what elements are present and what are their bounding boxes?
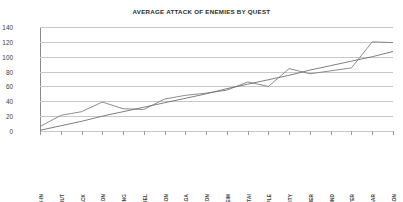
x-tick-label: COREL PRISON	[164, 194, 169, 202]
x-tick	[227, 131, 228, 135]
x-tick-label: ANCIENT CITY	[288, 194, 293, 202]
x-tick	[82, 131, 83, 135]
x-tick-label: TO COREL	[143, 194, 148, 202]
x-tick	[123, 131, 124, 135]
x-tick	[144, 131, 145, 135]
x-tick	[185, 131, 186, 135]
x-tick	[310, 131, 311, 135]
x-tick	[351, 131, 352, 135]
data-series-line	[40, 42, 393, 127]
y-tick-label: 20	[6, 113, 13, 120]
x-tick-label: BREAKOUT	[60, 194, 65, 202]
y-tick-label: 40	[6, 98, 13, 105]
y-axis-labels: 140120100806040200	[0, 0, 38, 202]
y-tick-label: 0	[9, 128, 13, 135]
x-tick	[331, 131, 332, 135]
x-tick-label: GREAT GLACIER	[309, 194, 314, 202]
x-tick-label: NIBELHEIM	[226, 194, 231, 202]
x-tick	[165, 131, 166, 135]
chart-title: AVERAGE ATTACK OF ENEMIES BY QUEST	[0, 8, 403, 15]
x-tick-label: COSMO CANYON	[205, 194, 210, 202]
chart-container: AVERAGE ATTACK OF ENEMIES BY QUEST 14012…	[0, 0, 403, 202]
plot-area	[40, 27, 393, 131]
trendline	[40, 52, 393, 131]
x-tick-label: UNDERWATER	[350, 194, 355, 202]
x-tick	[289, 131, 290, 135]
x-tick	[248, 131, 249, 135]
x-tick	[372, 131, 373, 135]
x-tick-label: BREACH-IN	[39, 194, 44, 202]
x-tick-label: RETURN TO MIDGAR	[371, 194, 376, 202]
x-tick-label: CROSSING	[122, 194, 127, 202]
x-tick	[61, 131, 62, 135]
x-tick-label: FLASHBACK	[81, 194, 86, 202]
x-tick	[393, 131, 394, 135]
x-tick-label: ANCIENT TEMPLE	[267, 194, 272, 202]
x-tick	[102, 131, 103, 135]
x-tick	[40, 131, 41, 135]
series-lines	[40, 27, 393, 131]
y-tick-label: 100	[2, 53, 13, 60]
y-tick-label: 60	[6, 83, 13, 90]
x-tick-label: GONGAGA	[184, 194, 189, 202]
x-tick-label: WHIRLWIND	[330, 194, 335, 202]
x-tick-label: JUNON	[101, 194, 106, 202]
x-tick-label: LAST DUNGEON	[392, 194, 397, 202]
x-tick	[206, 131, 207, 135]
y-tick-label: 80	[6, 68, 13, 75]
y-tick-label: 140	[2, 24, 13, 31]
x-axis-ticks	[40, 131, 393, 135]
x-axis-labels: BREACH-INBREAKOUTFLASHBACKJUNONCROSSINGT…	[40, 136, 393, 200]
x-tick-label: WUTAI	[247, 194, 252, 202]
x-tick	[268, 131, 269, 135]
y-tick-label: 120	[2, 38, 13, 45]
